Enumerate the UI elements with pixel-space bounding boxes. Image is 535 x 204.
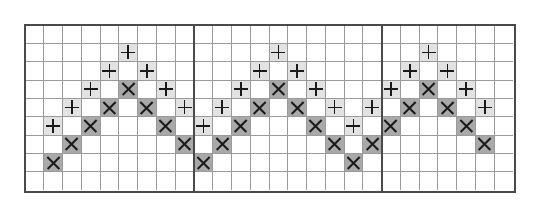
grid-line-vertical	[212, 25, 213, 190]
grid-line-vertical	[269, 25, 270, 190]
plus-cell	[119, 43, 138, 61]
plus-cell	[250, 62, 269, 80]
grid-line-horizontal	[25, 135, 513, 136]
cross-cell	[100, 98, 119, 116]
plus-cell	[213, 98, 232, 116]
grid-line-horizontal	[25, 171, 513, 172]
plus-cell	[325, 98, 344, 116]
grid-line-vertical	[344, 25, 345, 190]
grid-line-vertical	[306, 25, 307, 190]
section-divider	[193, 24, 195, 191]
plus-cell	[100, 62, 119, 80]
plus-cell	[288, 62, 307, 80]
grid-line-horizontal	[25, 153, 513, 154]
cross-cell	[194, 153, 213, 171]
cross-cell	[457, 117, 476, 135]
plus-cell	[419, 43, 438, 61]
cross-cell	[363, 135, 382, 153]
plus-cell	[81, 80, 100, 98]
grid-line-horizontal	[25, 98, 513, 99]
cross-cell	[213, 135, 232, 153]
grid-line-horizontal	[25, 43, 513, 44]
cross-cell	[119, 80, 138, 98]
grid-line-vertical	[437, 25, 438, 190]
cross-cell	[175, 135, 194, 153]
grid-line-vertical	[175, 25, 176, 190]
plus-cell	[175, 98, 194, 116]
cross-cell	[438, 98, 457, 116]
plus-cell	[438, 62, 457, 80]
plus-cell	[269, 43, 288, 61]
grid-line-vertical	[250, 25, 251, 190]
grid-line-vertical	[231, 25, 232, 190]
plus-cell	[307, 80, 326, 98]
chart-grid	[25, 25, 513, 190]
grid-line-vertical	[100, 25, 101, 190]
plus-cell	[138, 62, 157, 80]
cross-cell	[400, 98, 419, 116]
grid-line-vertical	[81, 25, 82, 190]
cross-cell	[250, 98, 269, 116]
grid-line-vertical	[494, 25, 495, 190]
cross-cell	[419, 80, 438, 98]
grid-line-vertical	[137, 25, 138, 190]
plus-cell	[363, 98, 382, 116]
plus-cell	[382, 80, 401, 98]
plus-cell	[400, 62, 419, 80]
grid-line-vertical	[475, 25, 476, 190]
plus-cell	[231, 80, 250, 98]
cross-cell	[156, 117, 175, 135]
plus-cell	[63, 98, 82, 116]
grid-line-horizontal	[25, 80, 513, 81]
grid-line-vertical	[43, 25, 44, 190]
grid-line-horizontal	[25, 116, 513, 117]
cross-cell	[138, 98, 157, 116]
plus-cell	[44, 117, 63, 135]
grid-line-vertical	[118, 25, 119, 190]
plus-cell	[344, 117, 363, 135]
cross-cell	[344, 153, 363, 171]
grid-line-vertical	[156, 25, 157, 190]
cross-cell	[44, 153, 63, 171]
cross-cell	[325, 135, 344, 153]
plus-cell	[475, 98, 494, 116]
cross-cell	[63, 135, 82, 153]
plus-cell	[457, 80, 476, 98]
cross-cell	[288, 98, 307, 116]
cross-cell	[475, 135, 494, 153]
grid-line-vertical	[362, 25, 363, 190]
grid-line-vertical	[62, 25, 63, 190]
cross-cell	[269, 80, 288, 98]
cross-cell	[307, 117, 326, 135]
cross-cell	[81, 117, 100, 135]
plus-cell	[156, 80, 175, 98]
grid-line-vertical	[419, 25, 420, 190]
cross-cell	[231, 117, 250, 135]
grid-line-vertical	[456, 25, 457, 190]
plus-cell	[194, 117, 213, 135]
cross-cell	[382, 117, 401, 135]
grid-line-horizontal	[25, 61, 513, 62]
grid-line-vertical	[400, 25, 401, 190]
section-divider	[381, 24, 383, 191]
grid-line-vertical	[287, 25, 288, 190]
grid-line-vertical	[325, 25, 326, 190]
